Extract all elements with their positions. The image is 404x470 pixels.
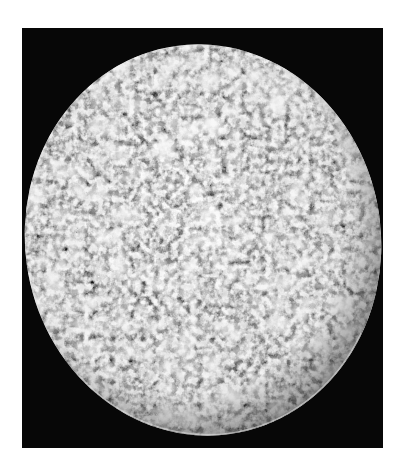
- moon-photograph: [22, 28, 383, 448]
- moon-image: [22, 28, 383, 448]
